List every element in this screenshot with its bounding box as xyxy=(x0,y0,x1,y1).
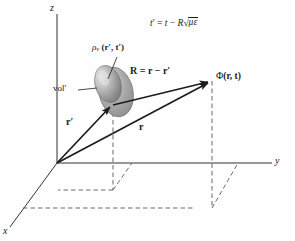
rho-subscript: v xyxy=(96,45,99,52)
potential-args: (r, t) xyxy=(223,71,241,81)
equation-prime-mark: ′ xyxy=(153,18,155,28)
retarded-time-equation: t′ = t − R√με xyxy=(150,18,198,29)
r-prime-vector-label: r′ xyxy=(66,117,73,127)
volume-label: vol′ xyxy=(53,84,66,93)
x-axis-label: x xyxy=(3,226,7,236)
equation-t: t xyxy=(165,18,168,28)
x-axis xyxy=(10,163,57,227)
r-vector-label: r xyxy=(139,122,143,132)
vol-leader-line xyxy=(78,88,97,90)
equation-minus: − xyxy=(170,18,175,28)
source-oblique xyxy=(113,163,132,190)
figure-canvas: z y x t′ = t − R√με ρv (r′, t′) vol′ R =… xyxy=(0,0,295,241)
source-density-args: (r′, t′) xyxy=(101,42,124,52)
y-axis-label: y xyxy=(275,156,279,166)
equation-equals: = xyxy=(157,18,162,28)
potential-label: Φ(r, t) xyxy=(216,71,241,82)
equation-radicand: με xyxy=(188,17,199,28)
equation-epsilon: ε xyxy=(193,17,197,27)
z-axis-label: z xyxy=(50,3,54,13)
diagram-svg xyxy=(0,0,295,241)
source-density-label: ρv (r′, t′) xyxy=(92,43,124,53)
R-vector-label: R = r − r′ xyxy=(130,66,170,76)
vector-r-prime xyxy=(57,107,110,163)
field-oblique xyxy=(212,163,238,208)
